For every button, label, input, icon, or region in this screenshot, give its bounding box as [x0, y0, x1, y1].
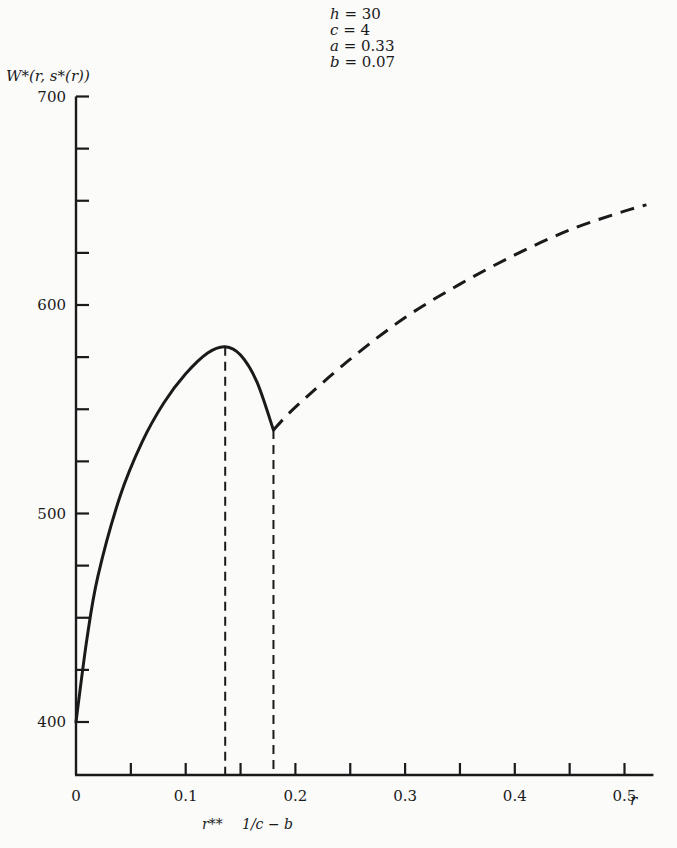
chart-canvas: W*(r, s*(r)) 40050060070000.10.20.30.40.…: [0, 0, 677, 848]
y-tick-label: 700: [37, 88, 66, 106]
x-tick-label: 0.3: [393, 787, 417, 805]
solid-curve: [76, 347, 273, 722]
x-axis-label: r: [630, 791, 638, 809]
x-tick-label: 0.4: [503, 787, 527, 805]
dashed-curve: [273, 205, 646, 430]
y-tick-label: 600: [37, 296, 66, 314]
annotation-1-over-c-minus-b: 1/c − b: [242, 816, 293, 832]
y-axis-label: W*(r, s*(r)): [6, 67, 90, 85]
x-tick-label: 0.2: [283, 787, 307, 805]
x-tick-label: 0: [71, 787, 81, 805]
annotation-r-star-star: r**: [202, 816, 223, 832]
axes: 40050060070000.10.20.30.40.5: [37, 88, 653, 806]
x-tick-label: 0.1: [174, 787, 198, 805]
curves: [76, 205, 646, 722]
y-tick-label: 400: [37, 713, 66, 731]
y-tick-label: 500: [37, 505, 66, 523]
